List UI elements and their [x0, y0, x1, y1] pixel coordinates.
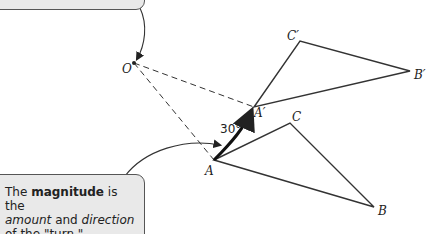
callout-magnitude: The magnitude is the amount and directio…: [0, 174, 145, 234]
label-C: C: [292, 110, 301, 124]
label-B-prime: B′: [414, 68, 426, 82]
label-A-prime: A′: [254, 106, 265, 120]
connector-top-to-O: [137, 8, 145, 59]
callout-text-and: and: [51, 213, 81, 227]
label-B: B: [378, 204, 387, 218]
callout-text-bold: magnitude: [31, 185, 104, 199]
callout-text-prefix: The: [5, 185, 31, 199]
rotation-diagram: The magnitude is the amount and directio…: [0, 0, 442, 234]
label-A: A: [205, 164, 214, 178]
callout-text-suffix: of the "turn.": [5, 227, 83, 234]
triangle-AprimeBprimeCprime: [254, 41, 410, 107]
callout-text-direction: direction: [82, 213, 135, 227]
callout-top: [0, 0, 145, 10]
angle-label: 30°: [220, 122, 241, 136]
callout-text-amount: amount: [5, 213, 51, 227]
point-O: [132, 61, 136, 65]
label-C-prime: C′: [287, 29, 299, 43]
label-O: O: [122, 62, 132, 76]
rotation-arrow: [214, 112, 251, 160]
dashed-O-Aprime: [134, 63, 254, 107]
